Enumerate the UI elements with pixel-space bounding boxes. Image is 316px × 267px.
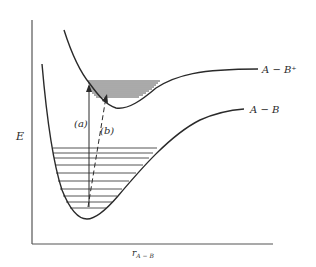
x-axis-label-sub: A − B — [135, 252, 154, 259]
upper-vibrational-levels — [88, 81, 160, 97]
curve-label-lower: A − B — [249, 104, 279, 115]
transition-a-label: (a) — [74, 118, 88, 129]
x-axis-label: rA − B — [132, 248, 154, 259]
curve-label-upper: A − B⁺ — [261, 64, 297, 75]
potential-energy-diagram: (a) (b) E A − B⁺ A − B rA − B — [0, 0, 316, 267]
upper-potential-curve — [64, 30, 258, 108]
axes — [32, 20, 273, 244]
y-axis-label: E — [15, 130, 24, 143]
lower-vibrational-levels — [53, 148, 157, 208]
transition-b-line — [88, 97, 106, 207]
transition-b-label: (b) — [100, 125, 114, 136]
